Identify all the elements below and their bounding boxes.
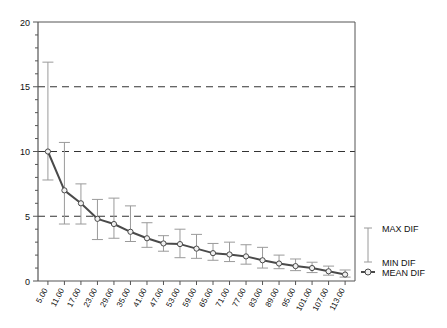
x-tick-label-9: 59.00 [181,286,199,308]
error-bar-line-chart: 051015205.0011.0017.0023.0029.0035.0041.… [0,0,447,328]
legend-label-min-dif: MIN DIF [382,258,416,268]
y-tick-label-5: 5 [25,212,30,222]
x-tick-label-18: 113.00 [328,286,347,312]
x-tick-label-2: 17.00 [65,286,83,308]
x-tick-label-7: 47.00 [148,286,166,308]
mean-dif-marker-3 [95,216,100,221]
x-tick-label-1: 11.00 [49,286,66,308]
x-tick-label-0: 5.00 [34,286,50,304]
y-tick-label-0: 0 [25,277,30,287]
mean-dif-marker-8 [177,241,182,246]
x-tick-label-11: 71.00 [214,286,232,308]
mean-dif-marker-11 [227,252,232,257]
x-tick-label-13: 83.00 [247,286,265,308]
x-tick-label-5: 35.00 [115,286,133,308]
x-tick-label-14: 89.00 [263,286,281,308]
mean-dif-marker-2 [78,201,83,206]
y-tick-label-20: 20 [20,18,30,28]
x-tick-label-10: 65.00 [197,286,215,308]
mean-dif-marker-16 [309,265,314,270]
mean-dif-marker-9 [194,246,199,251]
mean-dif-marker-10 [210,251,215,256]
mean-dif-marker-14 [276,261,281,266]
x-tick-label-4: 29.00 [98,286,116,308]
legend-label-max-dif: MAX DIF [382,224,419,234]
x-tick-label-12: 77.00 [230,286,248,308]
legend-mean-circle-icon [365,269,371,275]
mean-dif-marker-4 [111,221,116,226]
x-tick-label-8: 53.00 [164,286,182,308]
mean-dif-marker-1 [62,188,67,193]
mean-dif-marker-17 [326,269,331,274]
legend-label-mean-dif: MEAN DIF [382,268,426,278]
mean-dif-marker-18 [342,272,347,277]
mean-dif-marker-6 [144,236,149,241]
y-tick-label-15: 15 [20,82,30,92]
mean-dif-marker-5 [128,229,133,234]
mean-dif-marker-7 [161,241,166,246]
chart-container: 051015205.0011.0017.0023.0029.0035.0041.… [0,0,447,328]
x-tick-label-6: 41.00 [131,286,149,308]
x-tick-label-3: 23.00 [82,286,100,308]
mean-dif-marker-0 [45,149,50,154]
mean-dif-marker-15 [293,264,298,269]
mean-dif-marker-13 [260,258,265,263]
y-tick-label-10: 10 [20,147,30,157]
mean-dif-marker-12 [243,254,248,259]
